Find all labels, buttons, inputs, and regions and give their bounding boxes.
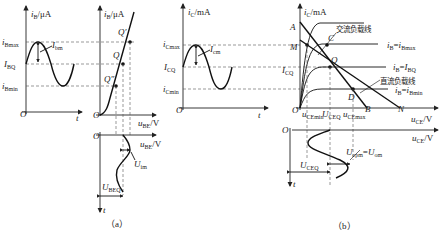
curve-ibmax	[300, 44, 378, 108]
point-d: D	[347, 92, 355, 102]
origin-label: O	[292, 105, 299, 115]
curve-ibq-label: iB=IBQ	[393, 62, 417, 73]
y-axis-label: iB/μA	[31, 9, 52, 20]
ucemax-label: uCEmax	[343, 109, 366, 120]
origin-label: O	[176, 105, 183, 115]
input-characteristic-plot: iB/μA O uBE/V Q′ Q Q″	[93, 6, 160, 195]
ucemin-label: uCEmin	[302, 109, 324, 120]
figure-a: iB/μA O t iBmax IBQ iBmin Ibm iB/μA O uB…	[2, 6, 162, 229]
point-b: B	[365, 104, 371, 114]
icq-label: ICQ	[163, 62, 176, 73]
point-q-double-prime: Q″	[104, 74, 114, 84]
point-m: M	[289, 42, 298, 52]
curve-ibq	[300, 67, 386, 108]
y-axis-label: iC/mA	[304, 7, 327, 18]
ucpm-label: Ucpm=Uom	[346, 147, 382, 158]
uce-waveform-plot: O uCE/V t Ucpm=Uom UCEQ	[282, 125, 438, 189]
x-axis-label: uCE/V	[412, 133, 434, 144]
x-axis-label: uBE/V	[138, 118, 160, 129]
origin-label: O	[282, 125, 289, 135]
ib-waveform-plot: iB/μA O t iBmax IBQ iBmin Ibm	[2, 6, 135, 123]
ac-load-line-label: 交流负载线	[336, 24, 372, 34]
t-label: t	[258, 110, 261, 120]
t-label: t	[103, 205, 106, 215]
ibmax-label: iBmax	[2, 37, 19, 48]
t-label: t	[76, 113, 79, 123]
y-axis-label: iC/mA	[188, 7, 211, 18]
caption-b: （b）	[333, 221, 356, 231]
curve-ibmin	[300, 89, 388, 108]
icmax-label: iCmax	[163, 39, 180, 50]
ube-sine-wave	[116, 135, 130, 192]
figure-b: iC/mA O t iCmax ICQ iCmin Icm iC/mA O uC…	[163, 4, 438, 231]
point-a: A	[289, 22, 296, 32]
ibm-label: Ibm	[51, 40, 63, 51]
ube-waveform-plot: O uBE/V t Uim UBEQ	[93, 131, 162, 215]
uim-label: Uim	[134, 159, 147, 170]
point-n: N	[397, 104, 405, 114]
icmin-label: iCmin	[163, 84, 179, 95]
icq-label: ICQ	[281, 65, 294, 76]
point-q-prime: Q′	[118, 27, 127, 37]
x-axis-label: uBE/V	[140, 139, 162, 150]
origin-label: O	[20, 109, 27, 119]
ibq-label: IBQ	[3, 59, 16, 70]
x-axis-label: uCE/V	[411, 114, 433, 125]
ibmin-label: iBmin	[2, 81, 18, 92]
origin-label: O	[93, 131, 100, 141]
y-axis-label: iB/μA	[104, 9, 125, 20]
input-curve	[100, 12, 134, 115]
curve-ibmin-label: iB=iBmin	[395, 85, 422, 96]
icm-label: Icm	[209, 44, 221, 55]
uceq-label: UCEQ	[322, 109, 341, 120]
dc-load-line-label: 直流负载线	[380, 76, 416, 86]
t-label: t	[293, 179, 296, 189]
uceq-bottom-label: UCEQ	[300, 160, 319, 171]
origin-label: O	[93, 110, 100, 120]
caption-a: （a）	[106, 219, 128, 229]
point-q: Q	[331, 55, 338, 65]
point-q: Q	[113, 50, 120, 60]
curve-ibmax-label: iB=iBmax	[387, 40, 415, 51]
